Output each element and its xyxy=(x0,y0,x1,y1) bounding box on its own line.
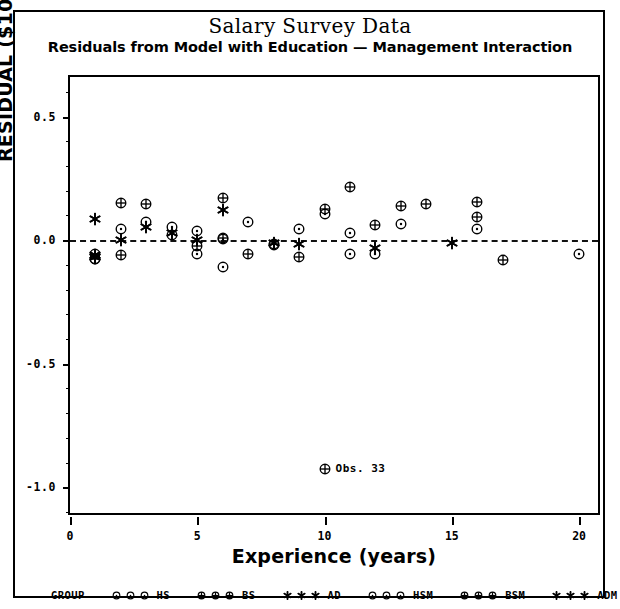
data-point-hsm xyxy=(215,259,231,275)
y-axis-tick xyxy=(63,364,70,366)
y-axis-minor-tick xyxy=(66,290,70,291)
data-point-ad xyxy=(367,240,383,256)
x-axis-tick-label: 0 xyxy=(50,529,90,543)
y-axis-minor-tick xyxy=(66,314,70,315)
y-axis-minor-tick xyxy=(66,463,70,464)
legend-entry-label: HSM xyxy=(413,589,433,601)
legend-entry-label: ADM xyxy=(597,589,617,601)
y-axis-label: RESIDUAL ($1000s) xyxy=(0,0,16,162)
y-axis-minor-tick xyxy=(66,265,70,266)
legend-entry-label: AD xyxy=(328,589,341,601)
data-point-bs xyxy=(418,196,434,212)
legend-symbol-circle-dot xyxy=(367,590,406,601)
data-point-hs xyxy=(291,221,307,237)
data-point-bs xyxy=(367,217,383,233)
y-axis-minor-tick xyxy=(66,166,70,167)
legend-entry-label: HS xyxy=(157,589,170,601)
data-point-hs xyxy=(571,246,587,262)
plot-area: Obs. 33 xyxy=(70,77,598,513)
data-point-hsm xyxy=(342,246,358,262)
chart-subtitle: Residuals from Model with Education — Ma… xyxy=(0,39,620,55)
data-point-bs xyxy=(342,179,358,195)
y-axis-minor-tick xyxy=(66,512,70,513)
chart-title: Salary Survey Data xyxy=(0,14,620,38)
y-axis-minor-tick xyxy=(66,215,70,216)
y-axis-minor-tick xyxy=(66,92,70,93)
data-point-bs xyxy=(469,194,485,210)
y-axis-tick xyxy=(63,240,70,242)
legend-entry-label: BSM xyxy=(505,589,525,601)
legend-inner: GROUP HSBSADHSMBSMADM xyxy=(13,589,605,601)
data-point-hs xyxy=(393,216,409,232)
y-axis-tick-label: -0.5 xyxy=(10,357,56,371)
y-axis-minor-tick xyxy=(66,191,70,192)
x-axis-label: Experience (years) xyxy=(68,545,600,567)
x-axis-tick xyxy=(452,517,454,525)
data-point-bsm xyxy=(240,246,256,262)
data-point-bs xyxy=(113,247,129,263)
y-axis-tick-label: -1.0 xyxy=(10,480,56,494)
data-point-bs xyxy=(113,195,129,211)
x-axis-tick-label: 10 xyxy=(305,529,345,543)
y-axis-minor-tick xyxy=(66,141,70,142)
legend-symbol-circle-dot xyxy=(111,590,150,601)
data-point-ad xyxy=(266,235,282,251)
data-point-bs xyxy=(469,209,485,225)
data-point-adm xyxy=(87,249,103,265)
legend-symbol-asterisk xyxy=(282,590,321,601)
y-axis-tick xyxy=(63,117,70,119)
legend-entry-ad: AD xyxy=(282,589,341,601)
data-point-ad xyxy=(444,235,460,251)
data-point-ad xyxy=(215,202,231,218)
legend: GROUP HSBSADHSMBSMADM xyxy=(13,583,605,607)
legend-entry-bs: BS xyxy=(196,589,255,601)
y-axis-minor-tick xyxy=(66,413,70,414)
outlier-annotation-label: Obs. 33 xyxy=(336,462,386,475)
legend-group-label: GROUP xyxy=(51,589,85,601)
zero-reference-line xyxy=(70,240,598,242)
x-axis-tick xyxy=(579,517,581,525)
data-point-ad xyxy=(87,211,103,227)
x-axis-tick-label: 20 xyxy=(559,529,599,543)
legend-entry-hsm: HSM xyxy=(367,589,433,601)
y-axis-minor-tick xyxy=(66,388,70,389)
figure-page: Salary Survey Data Residuals from Model … xyxy=(0,0,620,609)
data-point-hs xyxy=(342,225,358,241)
legend-symbol-asterisk xyxy=(551,590,590,601)
data-point-bs xyxy=(393,198,409,214)
data-point-bs xyxy=(317,201,333,217)
y-axis-tick xyxy=(63,487,70,489)
plot-frame: Obs. 33 0.50.0-0.5-1.005101520 xyxy=(68,75,600,515)
legend-entry-bsm: BSM xyxy=(459,589,525,601)
y-axis-tick-label: 0.0 xyxy=(10,233,56,247)
legend-symbol-circle-plus xyxy=(196,590,235,601)
data-point-ad xyxy=(113,232,129,248)
y-axis-minor-tick xyxy=(66,438,70,439)
legend-entry-hs: HS xyxy=(111,589,170,601)
x-axis-tick xyxy=(70,517,72,525)
x-axis-tick-label: 5 xyxy=(177,529,217,543)
y-axis-tick-label: 0.5 xyxy=(10,110,56,124)
data-point-bs xyxy=(215,230,231,246)
data-point-bs xyxy=(495,252,511,268)
data-point-hs xyxy=(240,214,256,230)
x-axis-tick xyxy=(197,517,199,525)
x-axis-tick xyxy=(325,517,327,525)
legend-entry-label: BS xyxy=(242,589,255,601)
data-point-hsm xyxy=(189,246,205,262)
data-point-ad xyxy=(138,219,154,235)
data-point-bs xyxy=(138,196,154,212)
data-point-bs xyxy=(317,461,333,477)
y-axis-minor-tick xyxy=(66,339,70,340)
x-axis-tick-label: 15 xyxy=(432,529,472,543)
data-point-ad xyxy=(164,225,180,241)
data-point-ad xyxy=(291,236,307,252)
legend-entry-adm: ADM xyxy=(551,589,617,601)
legend-symbol-circle-plus xyxy=(459,590,498,601)
